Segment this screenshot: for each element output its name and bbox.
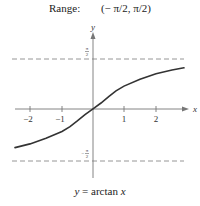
svg-text:1: 1 xyxy=(122,114,127,124)
x-tick-labels: −2 −1 1 2 xyxy=(23,114,158,124)
caption-eq: = xyxy=(79,185,91,197)
caption-var: x xyxy=(121,185,126,197)
svg-text:2: 2 xyxy=(86,52,89,57)
svg-text:−: − xyxy=(82,151,85,156)
chart-caption: y = arctan x xyxy=(0,185,200,197)
caption-func: arctan xyxy=(91,185,121,197)
arctan-plot: −2 −1 1 2 x y π 2 − π 2 xyxy=(0,0,200,206)
arctan-curve xyxy=(15,68,184,148)
svg-text:2: 2 xyxy=(86,154,89,159)
svg-text:2: 2 xyxy=(154,114,159,124)
x-axis-label: x xyxy=(192,104,197,114)
svg-text:π: π xyxy=(86,148,89,153)
x-axis-arrow-icon xyxy=(182,107,189,112)
svg-text:−1: −1 xyxy=(55,114,65,124)
y-axis-label: y xyxy=(90,22,95,32)
svg-text:π: π xyxy=(86,46,89,51)
svg-text:−2: −2 xyxy=(23,114,33,124)
y-tick-label-neg-pi-over-2: − π 2 xyxy=(82,148,89,159)
y-tick-label-pi-over-2: π 2 xyxy=(85,46,89,57)
y-axis-arrow-icon xyxy=(91,32,96,39)
